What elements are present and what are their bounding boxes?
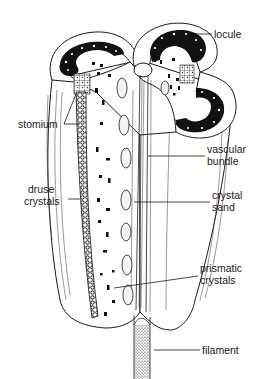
label-stomium: stomium — [18, 118, 58, 130]
prismatic-crystal — [100, 64, 103, 67]
prismatic-crystal — [173, 93, 176, 96]
prismatic-crystal — [97, 198, 100, 202]
prismatic-crystal — [178, 86, 180, 90]
crystal-sand-oval — [123, 285, 133, 305]
label-crystal-sand-line1: crystal — [212, 189, 242, 201]
prismatic-crystal — [106, 232, 109, 237]
prismatic-crystal — [170, 85, 172, 89]
prismatic-crystal — [100, 122, 103, 125]
prismatic-crystal — [106, 158, 110, 161]
crystal-sand-oval — [121, 190, 131, 210]
label-crystal-sand-line2: sand — [212, 201, 235, 213]
crystal-sand-oval — [117, 78, 127, 98]
label-druse-line2: crystals — [24, 195, 60, 207]
prismatic-crystal — [108, 74, 111, 77]
stomium-cells-left — [74, 74, 90, 94]
prismatic-crystal — [107, 285, 110, 290]
prismatic-crystal — [168, 74, 170, 78]
label-filament: filament — [202, 344, 239, 356]
crystal-sand-oval — [122, 255, 132, 275]
prismatic-crystal — [92, 62, 95, 65]
crystal-sand-oval — [119, 115, 129, 135]
prismatic-crystal — [108, 178, 111, 183]
label-vascular-line1: vascular — [207, 143, 247, 155]
prismatic-crystal — [102, 100, 105, 105]
crystal-sand-oval — [161, 81, 169, 95]
filament — [134, 315, 150, 379]
label-druse-line1: druse — [28, 183, 54, 195]
prismatic-crystal — [100, 273, 103, 276]
prismatic-crystal — [154, 58, 156, 62]
stomium-cells-right — [180, 65, 194, 83]
prismatic-crystal — [172, 58, 175, 61]
label-vascular-line2: bundle — [207, 155, 239, 167]
prismatic-crystal — [99, 175, 102, 178]
crystal-sand-oval — [121, 148, 131, 168]
prismatic-crystal — [176, 78, 179, 81]
prismatic-crystal — [97, 72, 100, 75]
prismatic-crystal — [112, 270, 115, 273]
prismatic-crystal — [103, 250, 107, 253]
label-locule: locule — [214, 28, 242, 40]
crystal-sand-oval — [121, 223, 131, 241]
prismatic-crystal — [95, 88, 98, 93]
prismatic-crystal — [112, 300, 115, 303]
prismatic-crystal — [98, 220, 101, 223]
anther-diagram: locule stomium druse crystals vascular b… — [0, 0, 264, 379]
prismatic-crystal — [106, 208, 110, 211]
prismatic-crystal — [96, 147, 99, 152]
prismatic-crystal — [104, 312, 107, 316]
label-prismatic-line1: prismatic — [200, 262, 242, 274]
prismatic-crystal — [160, 60, 162, 64]
label-prismatic-line2: crystals — [200, 274, 236, 286]
